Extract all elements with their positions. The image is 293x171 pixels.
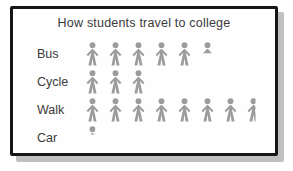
person-icon	[84, 97, 101, 123]
page-background: How students travel to college BusCycleW…	[0, 0, 293, 171]
icon-row	[84, 69, 147, 95]
person-icon	[130, 69, 147, 95]
person-icon	[199, 97, 216, 123]
person-icon	[107, 97, 124, 123]
icon-row	[84, 97, 262, 123]
person-icon	[107, 69, 124, 95]
person-icon	[130, 41, 147, 67]
person-icon	[84, 41, 101, 67]
icon-row	[84, 125, 101, 151]
person-icon	[176, 97, 193, 123]
person-icon	[84, 69, 101, 95]
chart-title: How students travel to college	[13, 16, 275, 30]
pictograph-rows: BusCycleWalkCar	[37, 40, 262, 152]
category-label: Cycle	[37, 75, 84, 89]
icon-row	[84, 41, 216, 67]
category-label: Car	[37, 131, 84, 145]
pictograph-row-walk: Walk	[37, 96, 262, 124]
person-icon	[153, 41, 170, 67]
person-icon	[153, 97, 170, 123]
person-icon	[130, 97, 147, 123]
pictograph-row-car: Car	[37, 124, 262, 152]
pictograph-panel: How students travel to college BusCycleW…	[10, 6, 278, 156]
person-icon	[176, 41, 193, 67]
upper-half-person-icon	[199, 41, 216, 67]
person-icon	[107, 41, 124, 67]
category-label: Walk	[37, 103, 84, 117]
pictograph-row-cycle: Cycle	[37, 68, 262, 96]
category-label: Bus	[37, 47, 84, 61]
pictograph-row-bus: Bus	[37, 40, 262, 68]
head-quarter-person-icon	[84, 125, 101, 151]
person-icon	[222, 97, 239, 123]
vertical-half-person-icon	[245, 97, 262, 123]
